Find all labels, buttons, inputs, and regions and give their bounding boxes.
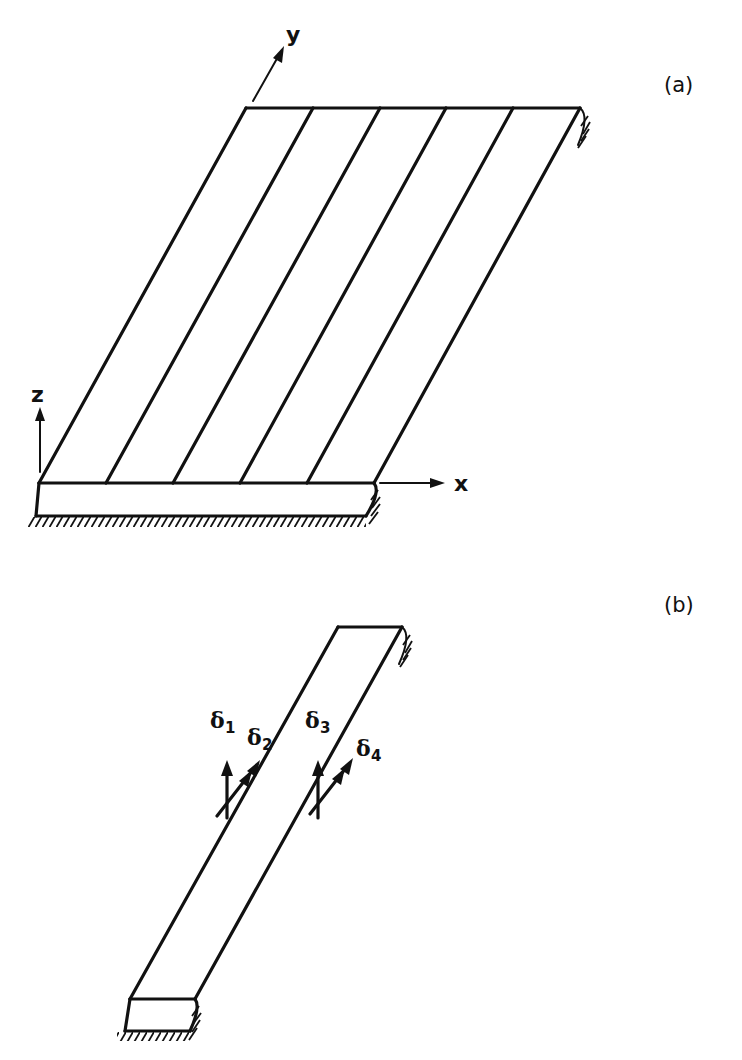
- front-edge-block: [36, 483, 376, 516]
- z-axis-arrow: z: [31, 382, 45, 472]
- delta-4-symbol: δ: [356, 735, 371, 761]
- panel-b-label: (b): [664, 593, 694, 617]
- strip-dividers: [106, 108, 513, 483]
- strip-line: [240, 108, 446, 483]
- x-axis-arrow: x: [380, 471, 468, 496]
- x-axis-label: x: [454, 471, 468, 496]
- figure-canvas: y z x (a): [0, 0, 742, 1060]
- delta-1-symbol: δ: [210, 707, 225, 733]
- panel-b: δ 1 δ 2 δ 3 δ 4 (b): [117, 593, 694, 1041]
- plate-outline: [39, 108, 580, 483]
- panel-a: y z x (a): [28, 22, 693, 527]
- panel-a-label: (a): [664, 73, 693, 97]
- strip-outline: [130, 627, 402, 999]
- delta-3-symbol: δ: [305, 707, 320, 733]
- bottom-support-hatch: [28, 490, 380, 527]
- strip-end-block: [117, 999, 201, 1041]
- y-axis-label: y: [286, 22, 300, 47]
- strip-line: [173, 108, 380, 483]
- delta-1-arrow: δ 1: [210, 707, 235, 818]
- y-axis-arrow: y: [253, 22, 300, 101]
- strip-line: [307, 108, 513, 483]
- delta-2-symbol: δ: [247, 724, 262, 750]
- delta-3-subscript: 3: [320, 719, 330, 737]
- top-right-support: [578, 108, 590, 148]
- z-axis-label: z: [31, 382, 44, 407]
- delta-2-subscript: 2: [262, 736, 272, 754]
- strip-top-support: [399, 627, 412, 667]
- delta-4-subscript: 4: [371, 747, 381, 765]
- strip-line: [106, 108, 313, 483]
- delta-1-subscript: 1: [225, 719, 235, 737]
